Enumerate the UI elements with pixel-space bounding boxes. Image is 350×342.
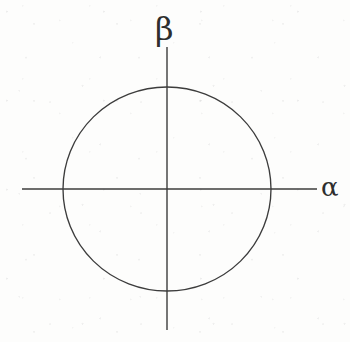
alpha-beta-circle-diagram xyxy=(0,0,350,342)
beta-axis-label: β xyxy=(155,13,174,45)
figure-canvas: β α xyxy=(0,0,350,342)
alpha-axis-label: α xyxy=(321,174,339,200)
